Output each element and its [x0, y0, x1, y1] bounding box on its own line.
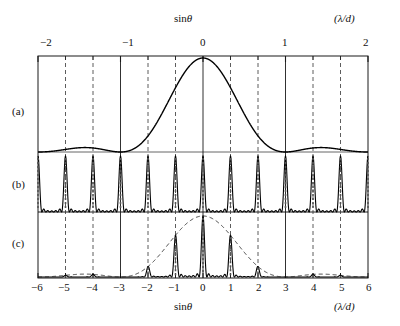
plot-canvas [0, 0, 400, 326]
diffraction-grating-figure: sinθ (λ/d) −2 −1 0 1 2 (a) (b) (c) sinθ … [0, 0, 400, 326]
